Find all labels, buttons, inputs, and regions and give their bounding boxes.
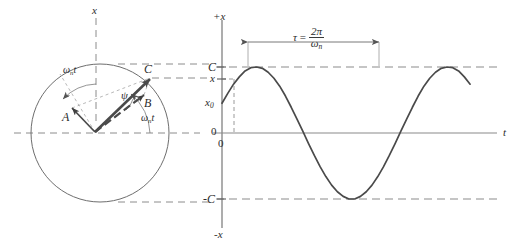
angle-arc-omega-upper	[63, 84, 96, 99]
figure-canvas	[0, 0, 517, 250]
wave-axis-label-plus-x: +x	[213, 10, 225, 22]
wave-tick-label-minus-c: -C	[203, 192, 215, 207]
vector-label-a: A	[62, 110, 69, 125]
angle-label-psi: ψ	[121, 89, 128, 101]
vector-a	[72, 108, 95, 132]
wave-tick-label-zero: 0	[211, 125, 217, 137]
period-annotation: τ = 2πωn	[293, 26, 324, 51]
vector-c	[95, 79, 150, 132]
period-denominator: ωn	[309, 38, 325, 50]
wave-plot-group	[213, 20, 500, 228]
physics-figure: x ωnt ωnt ψ A B C +x -x t C x x0 0 0 -C …	[0, 0, 517, 250]
wave-axis-label-t: t	[503, 126, 506, 138]
wave-origin-label: 0	[218, 137, 224, 149]
phasor-circle-group	[14, 18, 210, 202]
angle-label-omega-lower: ωnt	[141, 112, 154, 124]
wave-axis-label-minus-x: -x	[214, 228, 223, 240]
wave-tick-label-x0: x0	[205, 96, 214, 110]
angle-label-omega-upper: ωnt	[63, 64, 76, 76]
vertical-axis-label: x	[92, 4, 97, 16]
wave-tick-label-x: x	[210, 72, 215, 84]
guide-a-to-c	[72, 78, 150, 108]
vector-label-c: C	[144, 62, 152, 77]
period-fraction: 2πωn	[309, 26, 325, 51]
vector-label-b: B	[144, 96, 151, 111]
